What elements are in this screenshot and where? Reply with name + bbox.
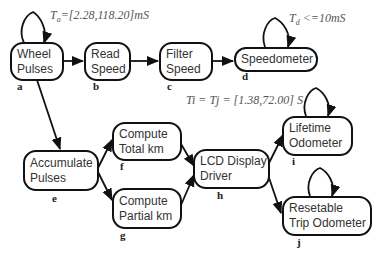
node-speedometer: Speedometer bbox=[234, 47, 318, 72]
edge-e-g bbox=[98, 172, 112, 200]
node-label-h: h bbox=[217, 189, 223, 201]
ann-text: =[2.28,118.20]mS bbox=[61, 8, 149, 22]
node-text-line1: LCD Display bbox=[200, 154, 263, 169]
node-text-line2: Pulses bbox=[17, 62, 57, 77]
ann-symbol: T bbox=[50, 8, 57, 22]
node-lcd-display-driver: LCD Display Driver bbox=[193, 149, 270, 189]
node-text-line2: Driver bbox=[200, 169, 263, 184]
annotation-tij: Ti = Tj = [1.38,72.00] S bbox=[186, 93, 303, 108]
node-text-line1: Speedometer bbox=[241, 52, 311, 67]
node-text-line2: Partial km bbox=[119, 209, 175, 224]
node-filter-speed: Filter Speed bbox=[159, 42, 213, 81]
node-text-line1: Resetable bbox=[289, 201, 365, 216]
node-text-line1: Lifetime bbox=[289, 121, 346, 136]
node-label-d: d bbox=[242, 70, 248, 82]
edge-h-i bbox=[269, 135, 283, 163]
edge-a-e bbox=[37, 80, 60, 149]
node-resetable-trip-odometer: Resetable Trip Odometer bbox=[282, 196, 372, 236]
node-accumulate-pulses: Accumulate Pulses bbox=[23, 150, 99, 191]
node-label-f: f bbox=[120, 160, 124, 172]
self-loop-j bbox=[308, 168, 333, 196]
node-text-line1: Compute bbox=[119, 127, 175, 142]
node-wheel-pulses: Wheel Pulses bbox=[10, 42, 64, 81]
node-label-b: b bbox=[93, 80, 99, 92]
node-text-line1: Read bbox=[91, 47, 124, 62]
node-text-line1: Wheel bbox=[17, 47, 57, 62]
self-loop-a bbox=[22, 12, 45, 43]
annotation-td: Td <=10mS bbox=[289, 11, 346, 27]
node-text-line1: Accumulate bbox=[30, 156, 92, 171]
node-text-line1: Compute bbox=[119, 194, 175, 209]
node-text-line2: Speed bbox=[166, 62, 206, 77]
node-label-i: i bbox=[292, 155, 295, 167]
node-text-line2: Trip Odometer bbox=[289, 216, 365, 231]
node-text-line2: Pulses bbox=[30, 171, 92, 186]
annotation-ta: Ta=[2.28,118.20]mS bbox=[50, 8, 149, 24]
ann-text: <=10mS bbox=[300, 11, 346, 25]
node-text-line2: Total km bbox=[119, 142, 175, 157]
node-compute-partial-km: Compute Partial km bbox=[112, 188, 182, 229]
node-read-speed: Read Speed bbox=[84, 42, 131, 81]
node-label-j: j bbox=[297, 236, 301, 248]
self-loop-d bbox=[263, 18, 289, 47]
node-label-e: e bbox=[52, 192, 57, 204]
node-label-a: a bbox=[17, 80, 23, 92]
self-loop-i bbox=[304, 88, 329, 116]
node-text-line2: Speed bbox=[91, 62, 124, 77]
node-text-line1: Filter bbox=[166, 47, 206, 62]
node-text-line2: Odometer bbox=[289, 136, 346, 151]
edge-e-f bbox=[98, 140, 112, 168]
node-lifetime-odometer: Lifetime Odometer bbox=[282, 116, 353, 156]
node-compute-total-km: Compute Total km bbox=[112, 122, 182, 161]
node-label-g: g bbox=[120, 229, 126, 241]
ann-symbol: T bbox=[289, 11, 296, 25]
edge-g-h bbox=[181, 175, 194, 205]
node-label-c: c bbox=[167, 80, 172, 92]
